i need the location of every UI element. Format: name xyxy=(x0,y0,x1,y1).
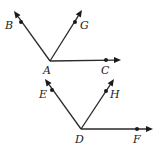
arrowhead-icon xyxy=(76,10,82,18)
angle-diagram: BGCAEHFD xyxy=(0,0,162,149)
arrowhead-icon xyxy=(146,126,153,132)
point-c xyxy=(104,58,108,62)
point-h xyxy=(104,89,108,93)
arrowhead-icon xyxy=(14,11,21,18)
arrowhead-icon xyxy=(108,79,114,86)
label-b: B xyxy=(4,19,13,32)
arrowhead-icon xyxy=(114,57,121,63)
point-g xyxy=(73,20,77,24)
label-h: H xyxy=(109,88,120,101)
ray-de xyxy=(49,85,81,129)
angle-D: EHFD xyxy=(38,79,153,146)
label-e: E xyxy=(38,88,47,101)
angle-A: BGCA xyxy=(4,10,121,77)
arrowhead-icon xyxy=(45,79,52,86)
ray-ab xyxy=(18,17,50,61)
point-f xyxy=(135,127,139,131)
label-a: A xyxy=(42,64,51,77)
label-c: C xyxy=(101,64,110,77)
point-e xyxy=(50,88,54,92)
label-f: F xyxy=(132,133,141,146)
point-b xyxy=(19,20,23,24)
label-d: D xyxy=(74,133,84,146)
label-g: G xyxy=(80,19,89,32)
